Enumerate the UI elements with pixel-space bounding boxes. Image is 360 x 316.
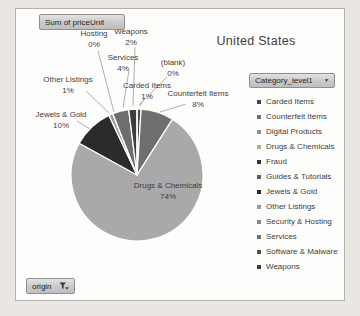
legend-swatch [257, 160, 261, 164]
legend-item: Jewels & Gold [257, 184, 338, 199]
data-label-other-listings: Other Listings1% [43, 74, 92, 96]
legend-item: Digital Products [257, 124, 338, 139]
value-field-button-label: Sum of priceUnit [45, 18, 104, 27]
legend-item-label: Services [266, 232, 297, 241]
legend-item: Security & Hosting [257, 214, 338, 229]
legend-item-label: Drugs & Chemicals [266, 142, 334, 151]
data-label-carded-items: Carded Items1% [123, 80, 171, 102]
legend-item-label: Carded Items [266, 97, 314, 106]
legend-item-label: Counterfeit Items [266, 112, 327, 121]
chart-legend: Carded ItemsCounterfeit ItemsDigital Pro… [257, 94, 338, 274]
data-label-counterfeit-items: Counterfeit Items8% [168, 88, 229, 110]
legend-item: Carded Items [257, 94, 338, 109]
legend-item-label: Software & Malware [266, 247, 338, 256]
legend-item: Counterfeit Items [257, 109, 338, 124]
legend-swatch [257, 190, 261, 194]
legend-swatch [257, 115, 261, 119]
legend-item: Other Listings [257, 199, 338, 214]
legend-item: Weapons [257, 259, 338, 274]
data-label--blank-: (blank)0% [161, 57, 185, 79]
data-label-jewels-gold: Jewels & Gold10% [35, 109, 86, 131]
legend-swatch [257, 265, 261, 269]
legend-item-label: Guides & Tutorials [266, 172, 331, 181]
legend-swatch [257, 250, 261, 254]
legend-swatch [257, 130, 261, 134]
legend-swatch [257, 235, 261, 239]
chevron-down-icon: ▼ [324, 78, 329, 83]
legend-item-label: Weapons [266, 262, 300, 271]
legend-item: Drugs & Chemicals [257, 139, 338, 154]
legend-item-label: Fraud [266, 157, 287, 166]
legend-item-label: Other Listings [266, 202, 315, 211]
legend-item-label: Security & Hosting [266, 217, 332, 226]
legend-swatch [257, 100, 261, 104]
legend-item-label: Digital Products [266, 127, 322, 136]
legend-item: Fraud [257, 154, 338, 169]
legend-swatch [257, 205, 261, 209]
axis-field-button[interactable]: origin [26, 278, 75, 294]
data-label-services: Services4% [108, 52, 139, 74]
legend-swatch [257, 220, 261, 224]
legend-swatch [257, 175, 261, 179]
axis-field-button-label: origin [32, 282, 52, 291]
legend-item: Guides & Tutorials [257, 169, 338, 184]
data-label-drugs-chemicals: Drugs & Chemicals74% [134, 180, 202, 202]
legend-item-label: Jewels & Gold [266, 187, 317, 196]
filter-icon [59, 282, 69, 291]
legend-item: Software & Malware [257, 244, 338, 259]
value-field-button[interactable]: Sum of priceUnit [39, 14, 125, 30]
legend-item: Services [257, 229, 338, 244]
legend-field-button-label: Category_level1 [255, 76, 313, 85]
legend-field-button[interactable]: Category_level1 ▼ [249, 73, 335, 88]
legend-swatch [257, 145, 261, 149]
pivot-chart-area: United States Carded Items1%Counterfeit … [15, 8, 345, 301]
